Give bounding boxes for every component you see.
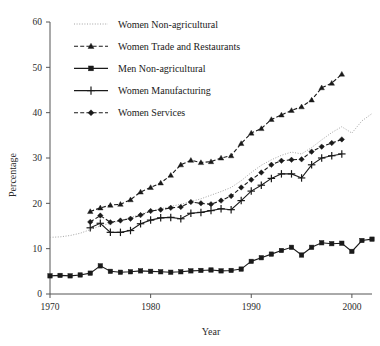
data-point-square (209, 268, 213, 272)
y-axis-title: Percentage (7, 153, 18, 197)
legend-label: Women Trade and Restaurants (118, 41, 240, 52)
data-point-diamond (198, 201, 204, 207)
data-point-triangle (168, 172, 174, 177)
data-point-square (118, 270, 122, 274)
data-point-triangle (188, 158, 194, 163)
data-point-diamond (309, 149, 315, 155)
data-point-triangle (289, 108, 295, 113)
data-point-plus (338, 150, 345, 157)
data-point-square (68, 274, 72, 278)
data-point-plus (87, 87, 95, 95)
legend-label: Men Non-agricultural (118, 63, 206, 74)
data-point-plus (197, 209, 204, 216)
data-point-plus (207, 207, 214, 214)
chart-figure: 0102030405060 1970198019902000 Year Perc… (0, 0, 380, 346)
data-point-diamond (269, 162, 275, 168)
data-point-plus (288, 170, 295, 177)
data-point-square (360, 238, 364, 242)
data-point-square (78, 273, 82, 277)
data-point-diamond (188, 199, 194, 205)
x-tick-label: 2000 (342, 302, 361, 312)
data-point-plus (268, 175, 275, 182)
data-point-triangle (218, 155, 224, 160)
y-tick-label: 30 (33, 153, 43, 163)
data-point-plus (258, 181, 265, 188)
data-point-square (229, 268, 233, 272)
data-point-square (98, 264, 102, 268)
y-tick-label: 50 (33, 63, 43, 73)
data-point-triangle (108, 202, 114, 207)
data-point-square (259, 256, 263, 260)
data-point-diamond (168, 205, 174, 211)
data-point-square (370, 237, 374, 241)
data-point-diamond (299, 157, 305, 163)
data-point-diamond (279, 158, 285, 164)
data-point-square (169, 270, 173, 274)
data-point-square (189, 269, 193, 273)
legend-entry-5[interactable]: Women Services (74, 107, 185, 118)
data-point-square (179, 270, 183, 274)
data-point-square (289, 245, 293, 249)
y-tick-label: 60 (33, 17, 43, 27)
data-series-group (48, 71, 374, 278)
legend-entry-4[interactable]: Women Manufacturing (74, 85, 211, 96)
x-tick-label: 1990 (242, 302, 261, 312)
legend-entry-3[interactable]: Men Non-agricultural (74, 63, 206, 74)
data-point-plus (117, 229, 124, 236)
data-point-square (299, 253, 303, 257)
legend-label: Women Non-agricultural (118, 19, 218, 30)
data-point-square (199, 268, 203, 272)
data-point-plus (278, 170, 285, 177)
data-point-plus (167, 214, 174, 221)
legend-label: Women Services (118, 107, 185, 118)
data-point-diamond (118, 218, 124, 224)
data-point-plus (127, 227, 134, 234)
legend-label: Women Manufacturing (118, 85, 211, 96)
data-point-square (279, 248, 283, 252)
data-point-triangle (299, 104, 305, 109)
data-point-plus (217, 205, 224, 212)
data-point-diamond (138, 212, 144, 218)
data-point-square (88, 271, 92, 275)
data-point-plus (328, 152, 335, 159)
x-axis-title: Year (202, 326, 221, 337)
data-point-triangle (339, 71, 345, 76)
y-tick-label: 0 (37, 289, 42, 299)
data-point-diamond (88, 110, 94, 116)
data-point-square (309, 245, 313, 249)
data-point-plus (177, 215, 184, 222)
y-tick-label: 40 (33, 108, 43, 118)
data-point-square (138, 269, 142, 273)
y-tick-label: 20 (33, 199, 43, 209)
data-point-diamond (329, 140, 335, 146)
data-point-square (219, 269, 223, 273)
data-point-diamond (148, 208, 154, 214)
data-point-plus (87, 224, 94, 231)
series-5 (88, 137, 345, 225)
data-point-square (340, 241, 344, 245)
data-point-square (148, 269, 152, 273)
data-point-plus (157, 214, 164, 221)
data-point-square (89, 66, 94, 71)
x-tick-label: 1970 (41, 302, 60, 312)
series-line (50, 114, 372, 238)
x-axis-ticks: 1970198019902000 (41, 294, 362, 312)
data-point-square (58, 273, 62, 277)
data-point-plus (187, 210, 194, 217)
legend-entry-1[interactable]: Women Non-agricultural (74, 19, 218, 30)
data-point-square (48, 274, 52, 278)
data-point-square (108, 269, 112, 273)
data-point-triangle (309, 97, 315, 102)
data-point-diamond (238, 185, 244, 191)
legend-entry-2[interactable]: Women Trade and Restaurants (74, 41, 240, 52)
data-point-diamond (289, 157, 295, 163)
data-point-diamond (339, 137, 345, 143)
x-tick-label: 1980 (141, 302, 160, 312)
data-point-square (128, 270, 132, 274)
series-3 (48, 237, 374, 278)
data-point-diamond (259, 170, 265, 176)
data-point-square (158, 270, 162, 274)
data-point-plus (147, 216, 154, 223)
data-point-square (330, 241, 334, 245)
data-point-diamond (249, 177, 255, 183)
